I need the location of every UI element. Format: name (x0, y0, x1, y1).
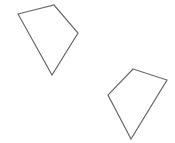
quadrilateral-lower-right (108, 69, 167, 139)
diagram-canvas (0, 0, 175, 143)
quadrilateral-upper-left (18, 5, 78, 75)
